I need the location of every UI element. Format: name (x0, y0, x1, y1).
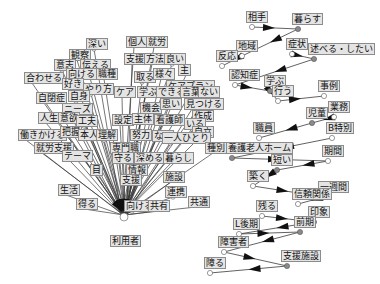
arrowhead-icon (263, 24, 275, 31)
node-label: 見つける (184, 98, 224, 110)
node-label: 設定 (112, 114, 134, 126)
node-circle (274, 167, 279, 172)
node-label: 反応 (216, 50, 238, 62)
node-circle (229, 155, 234, 160)
node-label: 生活 (58, 184, 80, 196)
node-label: 事例 (318, 80, 340, 92)
hub-label-riyousha: 利用者 (110, 235, 141, 247)
node-circle (207, 270, 212, 275)
node-circle (295, 26, 300, 31)
arrowhead-icon (249, 265, 261, 272)
node-circle (295, 201, 300, 206)
node-circle (221, 249, 226, 254)
arrowhead-icon (276, 214, 288, 221)
node-label: 述べる・したい (308, 43, 375, 55)
arrowhead-icon (270, 34, 282, 42)
node-circle (249, 24, 254, 29)
arrowhead-icon (303, 160, 315, 167)
node-circle (120, 213, 128, 221)
node-label: 認知症 (229, 69, 260, 81)
node-label: 目 (90, 164, 103, 176)
node-label: 深める (134, 152, 165, 164)
node-label: 様々 (153, 68, 175, 80)
node-label: 支援施設 (281, 250, 321, 262)
node-label: 業務 (328, 101, 350, 113)
node-circle (325, 158, 330, 163)
node-label: 守る (112, 152, 134, 164)
node-label: 共有 (148, 200, 170, 212)
node-circle (275, 98, 280, 103)
arrowhead-icon (262, 236, 274, 243)
node-label: 暮らし (163, 152, 194, 164)
node-label: 連携 (165, 186, 187, 198)
arrowhead-icon (240, 83, 252, 90)
node-label: ケア (114, 86, 136, 98)
node-label: 看護師 (154, 114, 185, 126)
node-label: 児童 (306, 107, 328, 119)
node-label: 主 (178, 64, 191, 76)
node-circle (256, 135, 261, 140)
node-label: 共通 (188, 196, 210, 208)
node-label: 好き (62, 78, 84, 90)
node-label: 信頼関係 (292, 188, 332, 200)
node-label: 自身 (68, 90, 90, 102)
node-label: 地域 (236, 40, 258, 52)
node-label: 一人ひとり (162, 132, 211, 144)
arrowhead-icon (276, 186, 288, 193)
arrowhead-icon (286, 124, 298, 131)
node-label: 暮らす (292, 13, 323, 25)
arrowhead-icon (257, 230, 269, 237)
node-label: 合わせる (24, 72, 64, 84)
node-label: 行う (272, 85, 294, 97)
node-label: 努力 (130, 129, 152, 141)
node-label: 思い (160, 98, 182, 110)
node-circle (309, 120, 314, 125)
node-circle (329, 135, 334, 140)
node-label: 人生 (38, 112, 60, 124)
node-circle (259, 213, 264, 218)
node-circle (331, 114, 336, 119)
node-label: 理解 (96, 129, 118, 141)
node-circle (284, 263, 289, 268)
node-label: B特別 (326, 122, 354, 134)
arrowhead-icon (243, 253, 255, 260)
node-circle (219, 63, 224, 68)
co-occurrence-network: 利用者深い個人就労観察意志伝える支援方法良い合わせる向ける職種取る様々主好きやり… (0, 0, 380, 284)
node-label: テーマ (62, 150, 93, 162)
arrowhead-icon (289, 96, 301, 103)
node-circle (297, 229, 302, 234)
node-label: 支援 (120, 174, 142, 186)
node-label: 種別 (205, 142, 227, 154)
node-label: 職員 (253, 122, 275, 134)
node-label: ない (198, 86, 220, 98)
node-label: 主体 (132, 113, 154, 125)
node-label: 期間 (322, 145, 344, 157)
node-label: 相手 (246, 11, 268, 23)
arrowhead-icon (275, 65, 287, 72)
node-label: 支援 (124, 53, 146, 65)
node-label: 得る (76, 198, 98, 210)
node-label: 職種 (96, 68, 118, 80)
node-circle (239, 53, 244, 58)
node-circle (321, 93, 326, 98)
node-label: 残る (256, 200, 278, 212)
node-label: 障害者 (218, 236, 249, 248)
node-label: L後期 (233, 218, 260, 230)
node-label: 養護老人ホーム (226, 142, 293, 154)
node-circle (289, 51, 294, 56)
node-label: 症状 (286, 38, 308, 50)
node-circle (311, 56, 316, 61)
node-label: 築く (247, 170, 269, 182)
node-circle (232, 82, 237, 87)
node-label: 方法 (144, 53, 166, 65)
node-label: 施設 (163, 171, 185, 183)
node-label: 前期 (294, 216, 316, 228)
node-label: 短い (271, 154, 293, 166)
node-label: 障る (204, 257, 226, 269)
node-label: 個人 (126, 36, 148, 48)
node-label: 就労 (146, 36, 168, 48)
node-circle (250, 183, 255, 188)
arrowhead-icon (277, 223, 289, 230)
